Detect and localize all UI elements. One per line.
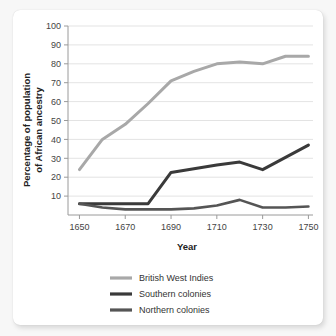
x-tick-labels: 165016701690171017301750 [69, 222, 318, 232]
y-tick-label-80: 80 [51, 59, 61, 69]
axes-group [64, 26, 313, 219]
y-tick-label-30: 30 [51, 154, 61, 164]
y-tick-label-70: 70 [51, 78, 61, 88]
y-axis-title-line1: Percentage of population [21, 73, 32, 187]
x-tick-label-1690: 1690 [161, 222, 181, 232]
legend-label-2: Northern colonies [139, 305, 210, 315]
x-tick-label-1730: 1730 [253, 222, 273, 232]
series-line-0 [79, 56, 308, 169]
legend: British West IndiesSouthern coloniesNort… [110, 273, 214, 315]
x-tick-label-1710: 1710 [207, 222, 227, 232]
x-tick-label-1650: 1650 [69, 222, 89, 232]
series-group [79, 56, 308, 209]
y-tick-label-60: 60 [51, 97, 61, 107]
y-tick-label-90: 90 [51, 40, 61, 50]
x-tick-label-1750: 1750 [298, 222, 318, 232]
chart-svg: 102030405060708090100 165016701690171017… [0, 0, 336, 336]
legend-label-0: British West Indies [139, 273, 214, 283]
y-axis-title: Percentage of population of African ance… [21, 73, 44, 187]
y-tick-label-100: 100 [46, 21, 61, 31]
y-axis-title-line2: of African ancestry [33, 86, 44, 172]
y-tick-label-50: 50 [51, 116, 61, 126]
y-tick-label-40: 40 [51, 135, 61, 145]
page-root: 102030405060708090100 165016701690171017… [0, 0, 336, 336]
series-line-1 [79, 145, 308, 204]
y-tick-label-10: 10 [51, 191, 61, 201]
legend-label-1: Southern colonies [139, 289, 212, 299]
x-axis-title: Year [177, 241, 197, 252]
y-tick-labels: 102030405060708090100 [46, 21, 61, 201]
y-tick-label-20: 20 [51, 172, 61, 182]
x-tick-label-1670: 1670 [115, 222, 135, 232]
line-chart: 102030405060708090100 165016701690171017… [0, 0, 336, 336]
